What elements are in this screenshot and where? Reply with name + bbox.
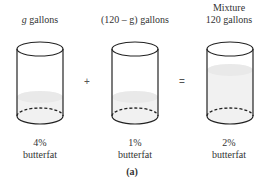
container-1-percent: 4% <box>0 137 85 149</box>
container-3-percent: 2% <box>184 137 263 149</box>
cylinder-1 <box>17 42 63 124</box>
figure-caption: (a) <box>112 166 152 177</box>
container-1-substance: butterfat <box>0 149 85 161</box>
cylinder-3 <box>207 42 253 124</box>
container-2-substance: butterfat <box>90 149 180 161</box>
cylinder-2 <box>112 42 158 124</box>
equals-operator: = <box>179 76 185 87</box>
plus-operator: + <box>84 76 90 87</box>
container-2-percent: 1% <box>90 137 180 149</box>
container-3-substance: butterfat <box>184 149 263 161</box>
